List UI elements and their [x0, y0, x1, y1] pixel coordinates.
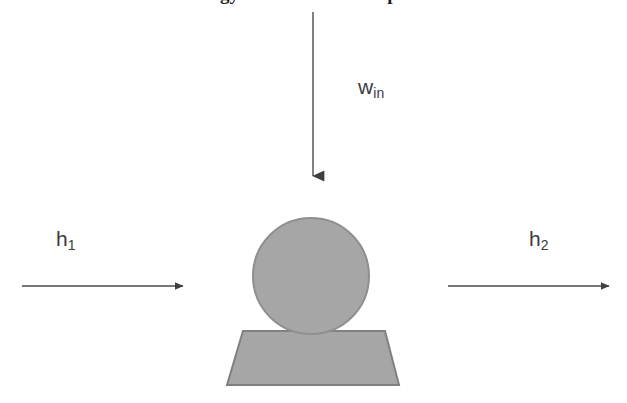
outlet-enthalpy-subscript: 2 — [541, 237, 549, 253]
outlet-enthalpy-base: h — [529, 227, 541, 250]
outlet-enthalpy-label: h2 — [529, 228, 549, 249]
inlet-enthalpy-subscript: 1 — [68, 237, 76, 253]
compressor-base-trapezoid — [227, 331, 399, 385]
work-input-label: win — [358, 76, 384, 97]
work-input-subscript: in — [373, 85, 384, 101]
diagram-canvas — [0, 0, 627, 403]
work-input-base: w — [358, 75, 373, 98]
compressor-energy-balance-diagram: Energy balance for a compressor h1 h2 wi… — [0, 0, 627, 403]
inlet-enthalpy-base: h — [56, 227, 68, 250]
compressor-body-circle — [253, 218, 369, 334]
inlet-enthalpy-label: h1 — [56, 228, 76, 249]
